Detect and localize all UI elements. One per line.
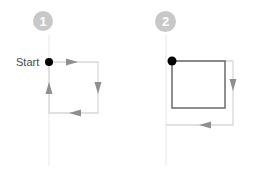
start-dot bbox=[168, 57, 177, 66]
loop-path-2 bbox=[166, 61, 233, 125]
start-dot bbox=[45, 58, 53, 66]
panel-step-1: 1 Start bbox=[0, 0, 128, 176]
loop-path-1 bbox=[49, 62, 98, 113]
turtle-path-diagram-2 bbox=[128, 0, 256, 176]
arrow-left-icon bbox=[199, 122, 211, 129]
panel-step-2: 2 bbox=[128, 0, 256, 176]
turtle-path-diagram-1 bbox=[0, 0, 128, 176]
arrow-up-icon bbox=[46, 82, 53, 94]
arrow-left-icon bbox=[69, 110, 81, 117]
arrow-right-icon bbox=[66, 59, 78, 66]
arrow-down-icon bbox=[95, 82, 102, 94]
arrow-down-icon bbox=[230, 79, 237, 91]
drawn-square bbox=[172, 61, 225, 108]
